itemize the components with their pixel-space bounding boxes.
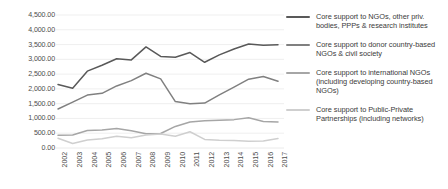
legend-item[interactable]: Core support to Public-Private Partnersh… xyxy=(286,105,448,124)
legend-item-label: Core support to NGOs, other priv. bodies… xyxy=(316,12,444,31)
legend-swatch-icon xyxy=(286,72,310,74)
y-axis-tick-label: 4,500.00 xyxy=(3,11,55,19)
legend-item[interactable]: Core support to NGOs, other priv. bodies… xyxy=(286,12,448,31)
line-chart: 2002200320042005200620072008200920102011… xyxy=(0,0,448,189)
legend-swatch-icon xyxy=(286,109,310,111)
y-axis-tick-label: 0.00 xyxy=(3,144,55,152)
legend-swatch-icon xyxy=(286,44,310,46)
legend-item-label: Core support to Public-Private Partnersh… xyxy=(316,105,444,124)
y-axis-tick-label: 3,000.00 xyxy=(3,55,55,63)
chart-legend: Core support to NGOs, other priv. bodies… xyxy=(286,0,448,189)
legend-swatch-icon xyxy=(286,16,310,18)
gridlines xyxy=(56,15,284,148)
y-axis-tick-label: 3,500.00 xyxy=(3,41,55,49)
y-axis-tick-label: 500.00 xyxy=(3,129,55,137)
y-axis-labels: 4,500.004,000.003,500.003,000.002,500.00… xyxy=(0,0,55,189)
legend-item[interactable]: Core support to international NGOs (incl… xyxy=(286,68,448,96)
series-line-2 xyxy=(58,118,278,135)
y-axis-tick-label: 1,000.00 xyxy=(3,114,55,122)
y-axis-tick-label: 2,500.00 xyxy=(3,70,55,78)
series-lines xyxy=(58,44,278,144)
y-axis-tick-label: 2,000.00 xyxy=(3,85,55,93)
y-axis-tick-label: 1,500.00 xyxy=(3,100,55,108)
legend-item[interactable]: Core support to donor country-based NGOs… xyxy=(286,40,448,59)
legend-item-label: Core support to donor country-based NGOs… xyxy=(316,40,444,59)
legend-item-label: Core support to international NGOs (incl… xyxy=(316,68,444,96)
y-axis-tick-label: 4,000.00 xyxy=(3,26,55,34)
